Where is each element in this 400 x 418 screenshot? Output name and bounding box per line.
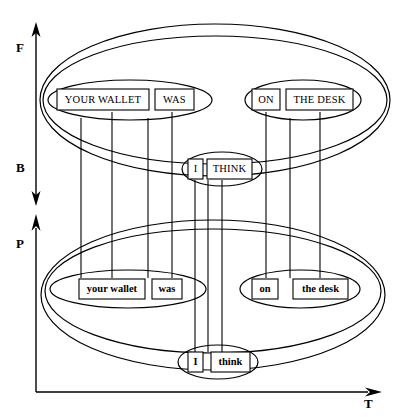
lower-box-label: I bbox=[193, 356, 197, 367]
upper-box-label: THE DESK bbox=[293, 94, 345, 105]
upper-box-the-desk: THE DESK bbox=[286, 89, 353, 110]
lower-box-label: was bbox=[159, 283, 176, 294]
lower-box-was: was bbox=[152, 279, 182, 299]
axis-f-b: F B bbox=[16, 22, 41, 206]
lower-box-i: I bbox=[188, 352, 203, 372]
upper-right-group: ON THE DESK bbox=[245, 80, 361, 120]
upper-box-i: I bbox=[188, 159, 203, 179]
lower-box-label: on bbox=[259, 283, 270, 294]
lower-left-group: your wallet was bbox=[50, 270, 206, 308]
lower-box-your-wallet: your wallet bbox=[79, 279, 145, 299]
axis-label-p: P bbox=[16, 236, 24, 251]
correspondence-lines bbox=[81, 112, 320, 352]
upper-box-label: I bbox=[194, 163, 198, 174]
upper-left-group: YOUR WALLET WAS bbox=[48, 80, 212, 120]
lower-box-label: the desk bbox=[302, 283, 339, 294]
axis-label-b: B bbox=[16, 160, 25, 175]
axis-label-t: T bbox=[364, 396, 373, 411]
upper-box-think: THINK bbox=[207, 159, 252, 179]
upper-box-label: THINK bbox=[213, 163, 247, 174]
lower-box-the-desk: the desk bbox=[293, 279, 348, 299]
upper-box-on: ON bbox=[252, 89, 280, 110]
lower-box-label: your wallet bbox=[87, 283, 138, 294]
upper-box-label: YOUR WALLET bbox=[65, 94, 142, 105]
lower-middle-group: I think bbox=[178, 345, 258, 379]
lower-box-think: think bbox=[211, 352, 250, 372]
upper-box-was: WAS bbox=[155, 89, 194, 110]
axis-label-f: F bbox=[16, 40, 24, 55]
lower-box-on: on bbox=[252, 279, 278, 299]
upper-box-your-wallet: YOUR WALLET bbox=[57, 89, 149, 110]
lower-box-label: think bbox=[219, 356, 243, 367]
upper-box-label: WAS bbox=[163, 94, 186, 105]
lower-right-group: on the desk bbox=[240, 270, 360, 308]
axis-p-t: P T bbox=[16, 214, 382, 411]
diagram-canvas: F B P T bbox=[0, 0, 400, 418]
upper-box-label: ON bbox=[258, 94, 274, 105]
